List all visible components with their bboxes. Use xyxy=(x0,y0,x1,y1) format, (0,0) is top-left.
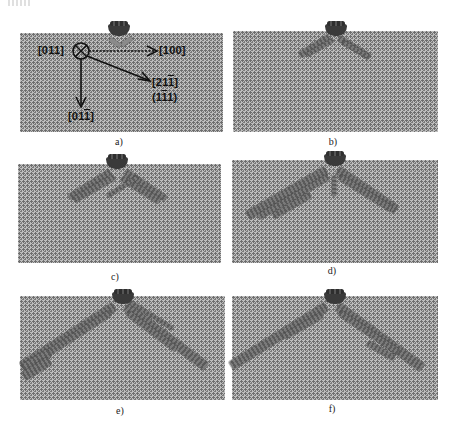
panel-caption-f: f) xyxy=(317,403,347,414)
panel-caption-b: b) xyxy=(318,136,348,147)
crystal-axes-diagram xyxy=(20,22,223,132)
atomic-lattice xyxy=(18,164,221,263)
direction-label-100: [100] xyxy=(159,44,186,56)
slip-band xyxy=(332,176,336,196)
panel-caption-c: c) xyxy=(100,271,130,282)
panel-c xyxy=(18,155,221,263)
panel-d xyxy=(232,152,438,263)
panel-caption-e: e) xyxy=(105,405,135,416)
panel-b xyxy=(233,22,438,132)
direction-label-011: [011] xyxy=(38,44,64,56)
panel-caption-a: a) xyxy=(104,136,134,147)
panel-caption-d: d) xyxy=(317,265,347,276)
plane-label-1-11: (111) xyxy=(152,91,177,103)
atomic-lattice xyxy=(233,31,438,132)
panel-e xyxy=(20,290,225,400)
panel-a: [011] [100] [211] (111) [011] xyxy=(20,22,223,132)
panel-f xyxy=(232,290,438,400)
direction-label-21-1: [211] xyxy=(152,76,178,88)
page-mark xyxy=(8,0,30,6)
direction-label-01-1: [011] xyxy=(68,110,94,122)
